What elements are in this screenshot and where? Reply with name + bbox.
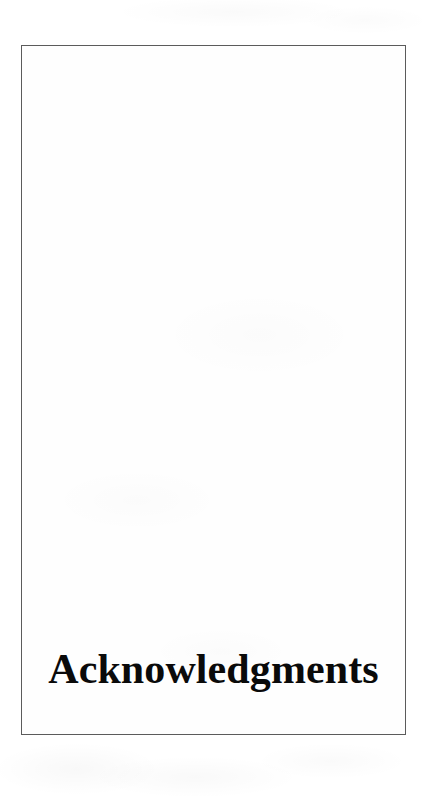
scanned-page-canvas: Acknowledgments <box>0 0 425 801</box>
page-title: Acknowledgments <box>22 646 405 692</box>
printed-page-border: Acknowledgments <box>21 45 406 735</box>
